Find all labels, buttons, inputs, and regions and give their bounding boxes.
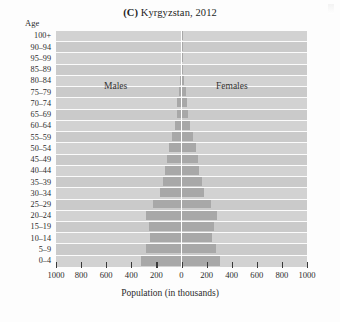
age-tick-label: 95–99 (31, 55, 51, 63)
age-tick-label: 60–64 (31, 122, 51, 130)
age-tick-label: 90–94 (31, 44, 51, 52)
x-axis-tick-labels: 100080060040020002004006008001000 (56, 270, 307, 284)
x-tick-label: 200 (150, 270, 163, 280)
bar-male (165, 166, 181, 175)
x-tick-mark (232, 262, 233, 268)
x-tick-mark (282, 262, 283, 268)
bar-female (182, 233, 212, 242)
bar-female (182, 200, 212, 209)
chart-title: (C) Kyrgyzstan, 2012 (0, 7, 340, 18)
bar-male (141, 256, 181, 266)
bar-female (182, 211, 217, 220)
x-tick-mark (156, 262, 157, 268)
age-tick-label: 55–59 (31, 134, 51, 142)
x-tick-mark (81, 262, 82, 268)
x-axis-title: Population (in thousands) (0, 288, 340, 298)
center-axis-line (181, 31, 183, 267)
bar-female (182, 256, 220, 266)
x-tick-label: 0 (179, 270, 183, 280)
chart-title-text: Kyrgyzstan, 2012 (141, 7, 217, 18)
bar-male (160, 188, 182, 197)
x-tick-mark (207, 262, 208, 268)
age-tick-label: 35–39 (31, 179, 51, 187)
x-tick-label: 800 (75, 270, 88, 280)
bar-male (153, 200, 182, 209)
y-axis-title: Age (25, 18, 39, 28)
age-tick-label: 20–24 (31, 212, 51, 220)
bar-male (169, 143, 181, 152)
age-tick-label: 15–19 (31, 223, 51, 231)
bar-female (182, 222, 214, 231)
age-tick-label: 80–84 (31, 77, 51, 85)
x-tick-mark (56, 262, 57, 268)
bar-female (182, 155, 198, 164)
bar-male (146, 244, 182, 253)
bar-female (182, 177, 202, 186)
age-tick-label: 5–9 (39, 246, 51, 254)
age-tick-label: 65–69 (31, 111, 51, 119)
series-label-males: Males (104, 81, 127, 91)
bar-female (182, 132, 194, 141)
x-tick-mark (106, 262, 107, 268)
age-tick-label: 40–44 (31, 167, 51, 175)
age-tick-label: 45–49 (31, 156, 51, 164)
age-tick-label: 85–89 (31, 66, 51, 74)
x-tick-label: 1000 (47, 270, 64, 280)
age-tick-label: 70–74 (31, 100, 51, 108)
bar-female (182, 98, 188, 107)
x-tick-mark (307, 262, 308, 268)
plot-area: Males Females (56, 31, 307, 267)
age-tick-label: 0–4 (39, 257, 51, 265)
bar-male (149, 222, 182, 231)
x-tick-mark (131, 262, 132, 268)
age-tick-label: 30–34 (31, 190, 51, 198)
bar-female (182, 121, 191, 130)
series-label-females: Females (216, 81, 248, 91)
bar-male (150, 233, 181, 242)
x-tick-label: 1000 (298, 270, 315, 280)
bar-male (163, 177, 182, 186)
age-tick-label: 10–14 (31, 235, 51, 243)
bar-male (167, 155, 181, 164)
x-tick-label: 600 (250, 270, 263, 280)
bar-female (182, 244, 217, 253)
x-tick-label: 600 (100, 270, 113, 280)
bar-female (182, 188, 205, 197)
bar-male (146, 211, 182, 220)
x-tick-label: 400 (125, 270, 138, 280)
bar-female (182, 143, 196, 152)
bar-female (182, 166, 200, 175)
population-pyramid-figure: (C) Kyrgyzstan, 2012 Age 100+90–9495–998… (0, 0, 340, 322)
x-tick-label: 400 (225, 270, 238, 280)
x-tick-label: 800 (275, 270, 288, 280)
y-axis-tick-labels: 100+90–9495–9985–8980–8475–7970–7465–696… (0, 31, 54, 267)
x-tick-label: 200 (200, 270, 213, 280)
age-tick-label: 75–79 (31, 89, 51, 97)
age-tick-label: 100+ (34, 32, 51, 40)
x-tick-mark (257, 262, 258, 268)
bar-female (182, 110, 188, 119)
age-tick-label: 50–54 (31, 145, 51, 153)
age-tick-label: 25–29 (31, 201, 51, 209)
panel-label: (C) (123, 7, 138, 18)
